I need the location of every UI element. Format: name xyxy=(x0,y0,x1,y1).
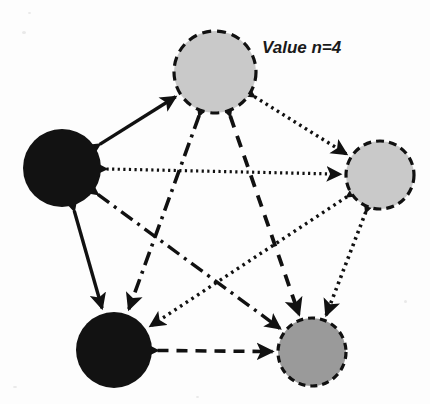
edge-left-bottomleft xyxy=(74,211,102,308)
right-node[interactable] xyxy=(346,141,414,209)
edge-top-bottomleft xyxy=(129,116,199,309)
graph-canvas: Value n=4 xyxy=(0,0,430,404)
left-node[interactable] xyxy=(23,129,101,207)
top-node[interactable] xyxy=(174,31,256,113)
nodes-layer xyxy=(23,31,414,388)
edge-top-bottomright xyxy=(230,116,299,315)
network-diagram-figure: Value n=4 xyxy=(0,0,430,404)
edge-bottomleft-bottomright xyxy=(157,350,272,351)
bottom-right-node[interactable] xyxy=(278,318,346,386)
bottom-left-node[interactable] xyxy=(76,312,152,388)
value-annotation-label: Value n=4 xyxy=(262,38,342,57)
edge-right-bottomleft xyxy=(150,197,347,326)
edge-left-right xyxy=(106,169,340,174)
edge-top-right xyxy=(254,97,346,154)
edge-left-bottomright xyxy=(98,194,280,328)
edge-right-bottomright xyxy=(326,212,366,315)
edge-left-top xyxy=(100,97,176,145)
